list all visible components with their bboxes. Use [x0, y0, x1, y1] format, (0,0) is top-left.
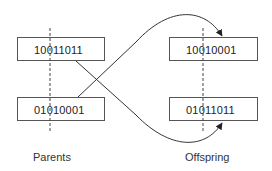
offspring-chromosome-2-bits: 01011011 — [186, 104, 235, 116]
offspring-chromosome-1-bits: 10010001 — [186, 44, 237, 56]
parent-chromosome-1-bits: 10011011 — [34, 44, 83, 56]
parents-label: Parents — [33, 151, 71, 163]
parent-chromosome-2: 01010001 — [17, 97, 105, 121]
diagram-canvas — [0, 0, 272, 171]
offspring-chromosome-2: 01011011 — [169, 97, 258, 121]
parent-chromosome-2-bits: 01010001 — [34, 104, 85, 116]
offspring-chromosome-1: 10010001 — [169, 37, 258, 61]
offspring-label: Offspring — [185, 151, 229, 163]
parent-chromosome-1: 10011011 — [17, 37, 105, 61]
